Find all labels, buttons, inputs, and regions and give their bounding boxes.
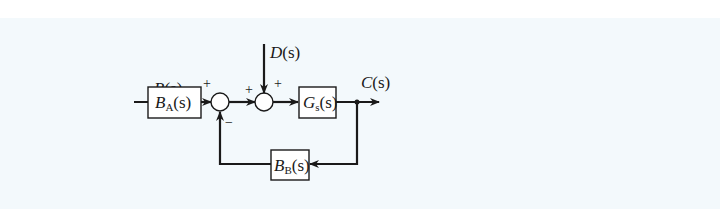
- block-ba: BA(s): [148, 87, 201, 118]
- sum1-plus-sign: +: [203, 76, 211, 91]
- sum1-minus-sign: −: [225, 115, 233, 130]
- sum2-plus-left-sign: +: [245, 82, 253, 97]
- block-bb-label: BB(s): [274, 156, 310, 176]
- block-diagram: R(s) BA(s) + − + + D(s) Gs(s) C(s) BB(s): [0, 0, 720, 209]
- block-bb: BB(s): [271, 150, 310, 180]
- block-gs-label: Gs(s): [303, 93, 338, 113]
- disturbance-label: D(s): [269, 43, 300, 62]
- block-gs: Gs(s): [299, 87, 338, 118]
- summing-junction-1: [211, 93, 229, 111]
- sum2-plus-top-sign: +: [274, 76, 282, 91]
- output-label: C(s): [361, 73, 390, 92]
- block-ba-label: BA(s): [155, 93, 191, 113]
- summing-junction-2: [255, 93, 273, 111]
